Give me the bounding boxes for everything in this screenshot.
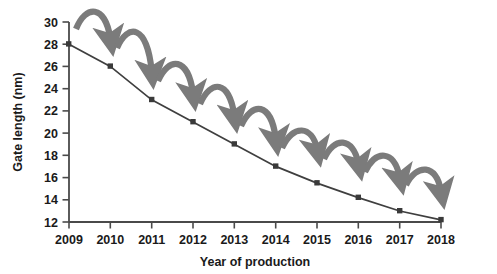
- hop-arrow: [324, 143, 358, 163]
- y-tick-label: 14: [44, 193, 58, 207]
- y-tick-label: 18: [44, 149, 58, 163]
- x-tick-label: 2009: [55, 233, 83, 247]
- y-tick-label: 24: [44, 82, 58, 96]
- x-tick-label: 2011: [138, 233, 165, 247]
- y-tick-label: 20: [44, 127, 58, 141]
- data-point-marker: [438, 217, 443, 222]
- x-tick-label: 2018: [427, 233, 455, 247]
- data-point-marker: [314, 180, 319, 185]
- data-point-marker: [273, 163, 278, 168]
- x-tick-label: 2017: [386, 233, 414, 247]
- x-tick-label: 2013: [220, 233, 248, 247]
- x-tick-label: 2015: [303, 233, 331, 247]
- y-tick-label: 16: [44, 171, 58, 185]
- x-tick-label: 2012: [179, 233, 207, 247]
- y-tick-label: 28: [44, 38, 58, 52]
- data-point-marker: [190, 119, 195, 124]
- y-axis-title: Gate length (nm): [11, 72, 25, 171]
- x-tick-label: 2010: [96, 233, 124, 247]
- y-tick-label: 12: [44, 216, 58, 230]
- data-point-marker: [149, 97, 154, 102]
- y-tick-label: 30: [44, 16, 58, 30]
- hop-arrow: [158, 64, 193, 93]
- hop-arrow: [200, 87, 234, 115]
- y-axis-ticks: [63, 22, 70, 222]
- hop-arrow: [282, 130, 317, 149]
- x-axis-tick-labels: 2009 2010 2011 2012 2013 2014 2015 2016 …: [55, 233, 455, 247]
- hop-arrow: [117, 32, 152, 71]
- data-point-markers: [66, 41, 444, 222]
- axes: [69, 22, 441, 222]
- y-tick-label: 26: [44, 60, 58, 74]
- gate-length-chart: 12 14 16 18 20 22 24 26 28 30 2009: [0, 0, 497, 274]
- y-axis-tick-labels: 12 14 16 18 20 22 24 26 28 30: [44, 16, 58, 230]
- hop-arrow: [406, 170, 441, 191]
- data-point-marker: [66, 41, 71, 46]
- y-tick-label: 22: [44, 104, 58, 118]
- data-point-marker: [397, 208, 402, 213]
- data-point-marker: [108, 63, 113, 68]
- data-line: [69, 44, 441, 220]
- hop-arrow: [241, 109, 276, 138]
- x-tick-label: 2014: [262, 233, 290, 247]
- x-axis-ticks: [69, 222, 441, 229]
- x-tick-label: 2016: [344, 233, 372, 247]
- data-point-marker: [356, 195, 361, 200]
- hop-arrow: [365, 156, 400, 177]
- hop-arrow: [76, 12, 110, 38]
- data-point-marker: [232, 141, 237, 146]
- x-axis-title: Year of production: [200, 255, 310, 269]
- hop-arrow-annotations: [76, 12, 441, 191]
- chart-canvas: 12 14 16 18 20 22 24 26 28 30 2009: [0, 0, 497, 274]
